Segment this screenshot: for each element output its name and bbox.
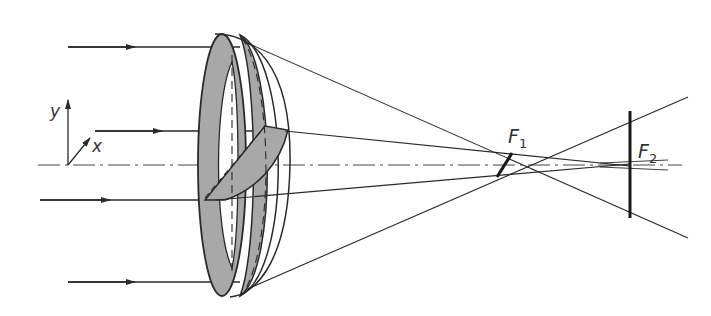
focus1-label: F1 — [508, 125, 527, 151]
cylindrical-lens-diagram: y x F1 F2 — [0, 0, 711, 316]
focus2-label: F2 — [638, 140, 657, 166]
x-axis-arrow — [68, 138, 90, 165]
outer-ray-top — [245, 42, 688, 238]
y-axis-label: y — [49, 101, 61, 121]
outer-ray-bottom — [245, 97, 688, 290]
x-axis-label: x — [91, 136, 103, 156]
coordinate-axes — [68, 100, 90, 165]
refracted-rays — [215, 42, 688, 290]
